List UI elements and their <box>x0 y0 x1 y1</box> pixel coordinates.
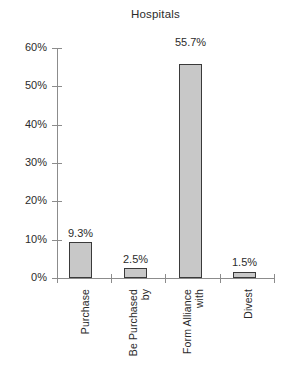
bar-purchase <box>69 242 92 278</box>
y-axis-tick <box>52 125 62 126</box>
bar-divest <box>233 272 256 278</box>
bar-value-be-purchased-by: 2.5% <box>110 253 161 265</box>
y-axis-tick <box>52 163 62 164</box>
bar-value-form-alliance-with: 55.7% <box>165 36 216 48</box>
x-axis-label-line: Purchase <box>80 289 91 334</box>
y-axis-tick <box>52 201 62 202</box>
y-axis-tick-label-0: 0% <box>6 271 52 283</box>
y-axis-tick-label-60: 60% <box>6 41 52 53</box>
bar-value-purchase: 9.3% <box>55 227 106 239</box>
y-axis-tick-label-40: 40% <box>6 118 52 130</box>
x-axis-label-purchase: Purchase <box>58 289 112 385</box>
bar-value-divest: 1.5% <box>219 256 270 268</box>
x-axis-label-be-purchased-by: Be Purchased by <box>112 289 166 385</box>
y-axis-tick-label-50: 50% <box>6 79 52 91</box>
bar-chart: Hospitals 0% 10% 20% 30% 40% 50% 60% 9.3… <box>0 0 295 385</box>
x-axis-line <box>57 278 275 279</box>
x-axis-label-line: Divest <box>243 289 254 319</box>
x-axis-tick <box>220 274 221 283</box>
x-axis-label-line: Be Purchased <box>128 289 139 356</box>
x-axis-label-line: with <box>194 289 205 308</box>
bar-be-purchased-by <box>124 268 147 278</box>
y-axis-tick <box>52 48 62 49</box>
x-axis-label-divest: Divest <box>221 289 275 385</box>
y-axis-tick-label-30: 30% <box>6 156 52 168</box>
bar-form-alliance-with <box>179 64 202 278</box>
x-axis-label-line: Form Alliance <box>182 289 193 354</box>
x-axis-label-line: by <box>140 289 151 300</box>
y-axis-tick <box>52 86 62 87</box>
x-axis-tick <box>274 274 275 283</box>
x-axis-tick <box>111 274 112 283</box>
x-axis-label-form-alliance-with: Form Alliance with <box>166 289 220 385</box>
y-axis-tick-label-10: 10% <box>6 233 52 245</box>
x-axis-tick <box>57 274 58 283</box>
plot-area: 0% 10% 20% 30% 40% 50% 60% 9.3% 2.5% 55.… <box>0 0 295 385</box>
x-axis-tick <box>165 274 166 283</box>
y-axis-tick <box>52 240 62 241</box>
y-axis-tick-label-20: 20% <box>6 194 52 206</box>
